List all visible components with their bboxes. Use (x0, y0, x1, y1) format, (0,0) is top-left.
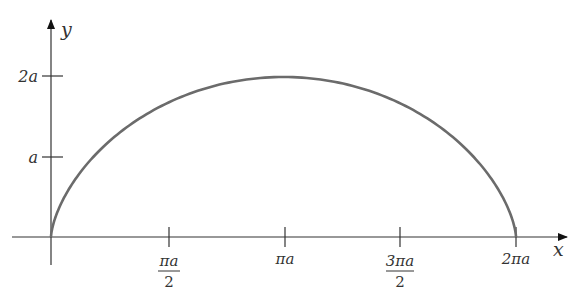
x-tick-label-pi-half-den: 2 (164, 273, 174, 291)
y-tick-label-a: a (28, 148, 38, 167)
y-axis-label: y (60, 18, 72, 40)
x-tick-label-3pi-half-den: 2 (395, 273, 405, 291)
cycloid-chart: y x 2a a πa 2 πa 3πa 2 2πa (0, 0, 581, 300)
x-tick-label-pi: πa (275, 250, 295, 268)
x-tick-label-pi-half-num: πa (159, 252, 179, 270)
cycloid-curve (51, 77, 516, 237)
x-tick-label-3pi-half-num: 3πa (386, 252, 414, 270)
y-tick-label-2a: 2a (17, 67, 38, 86)
x-axis-label: x (553, 238, 564, 260)
x-tick-label-2pi: 2πa (501, 250, 530, 268)
